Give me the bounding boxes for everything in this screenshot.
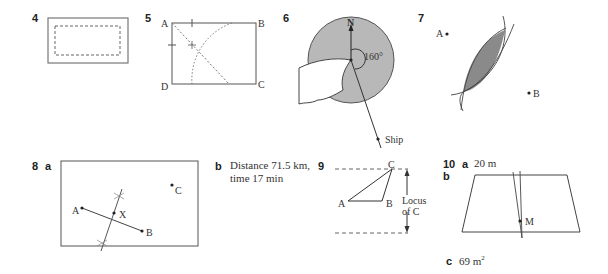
q7-point-b: B bbox=[533, 88, 540, 99]
q6-diagram: N 160° Ship bbox=[299, 17, 403, 148]
q9-diagram: A B C Locus of C bbox=[335, 159, 427, 233]
diagrams-canvas: A B C D N 160° Ship A B bbox=[0, 0, 608, 274]
q6-angle-label: 160° bbox=[364, 51, 383, 62]
q6-north-label: N bbox=[347, 17, 355, 28]
q5-label-a: A bbox=[161, 18, 169, 29]
q9-locus-line1: Locus bbox=[402, 195, 427, 206]
q9-point-b: B bbox=[386, 198, 393, 209]
q9-locus-line2: of C bbox=[402, 206, 420, 217]
q6-ship-label: Ship bbox=[385, 134, 403, 145]
q8-diagram: A B X C bbox=[61, 161, 198, 251]
q7-diagram: A B bbox=[436, 16, 540, 111]
q4-diagram bbox=[48, 18, 128, 63]
q10-point-m: M bbox=[525, 216, 534, 227]
q8-point-x: X bbox=[119, 209, 127, 220]
q10-diagram: M bbox=[462, 171, 580, 238]
q9-point-c: C bbox=[388, 159, 395, 170]
q5-diagram: A B C D bbox=[161, 18, 265, 92]
q5-label-d: D bbox=[161, 81, 168, 92]
q8-point-c: C bbox=[175, 185, 182, 196]
q7-point-a: A bbox=[436, 28, 444, 39]
q8-point-b: B bbox=[146, 227, 153, 238]
q8-point-a: A bbox=[72, 205, 80, 216]
q5-label-c: C bbox=[258, 79, 265, 90]
q5-label-b: B bbox=[258, 18, 265, 29]
q9-point-a: A bbox=[338, 198, 346, 209]
